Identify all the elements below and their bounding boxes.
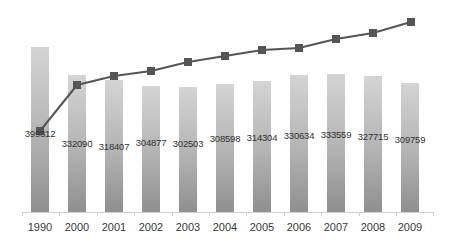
- x-tick-label: 2008: [353, 221, 393, 233]
- line-marker-square: [184, 58, 192, 66]
- x-tick-label: 2001: [94, 221, 134, 233]
- line-marker-square: [295, 44, 303, 52]
- line-marker-square: [369, 29, 377, 37]
- combo-chart: 3993123320903184073048773025033085983143…: [0, 0, 451, 250]
- x-tick-label: 2002: [131, 221, 171, 233]
- x-tick-label: 2000: [57, 221, 97, 233]
- x-tick-label: 2009: [390, 221, 430, 233]
- line-marker-square: [110, 72, 118, 80]
- x-tick-label: 2005: [242, 221, 282, 233]
- line-marker-square: [407, 18, 415, 26]
- data-label: 309759: [387, 134, 433, 145]
- x-tick-label: 2003: [168, 221, 208, 233]
- line-marker-square: [332, 35, 340, 43]
- x-tick-label: 2007: [316, 221, 356, 233]
- x-tick-label: 1990: [20, 221, 60, 233]
- x-tick-label: 2006: [279, 221, 319, 233]
- x-tick-label: 2004: [205, 221, 245, 233]
- line-marker-square: [258, 46, 266, 54]
- line-series: [0, 0, 451, 250]
- line-marker-square: [221, 52, 229, 60]
- line-marker-square: [73, 81, 81, 89]
- line-marker-square: [147, 67, 155, 75]
